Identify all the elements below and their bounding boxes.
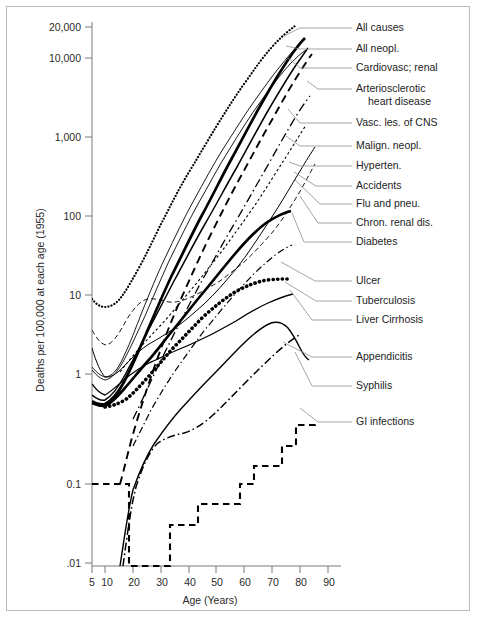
y-tick-label: 1 bbox=[75, 368, 81, 380]
mortality-log-log-chart: 20,000 10,000 1,000 100 10 1 0.1 .01 5 1… bbox=[0, 0, 478, 619]
chart-screenshot: 20,000 10,000 1,000 100 10 1 0.1 .01 5 1… bbox=[0, 0, 478, 619]
leader-liver-cirrhosis bbox=[290, 290, 352, 320]
x-tick-label: 10 bbox=[101, 576, 113, 588]
x-tick-label: 70 bbox=[267, 576, 279, 588]
curve-vasc-les-of-cns bbox=[92, 48, 308, 400]
plot-curves bbox=[92, 26, 315, 566]
y-tick-label: .01 bbox=[66, 557, 81, 569]
y-tick-label: 0.1 bbox=[66, 478, 81, 490]
leader-chron-renal-dis bbox=[300, 196, 352, 223]
label-arteriosclerotic: Arteriosclerotic bbox=[356, 82, 425, 94]
annotation-labels: All causes All neopl. Cardiovasc; renal … bbox=[356, 21, 438, 427]
x-ticks: 5 10 20 30 40 50 60 70 80 90 bbox=[89, 566, 335, 588]
x-tick-label: 20 bbox=[128, 576, 140, 588]
label-flu-and-pneu: Flu and pneu. bbox=[356, 197, 420, 209]
leader-diabetes bbox=[292, 213, 352, 242]
label-cardiovasc-renal: Cardiovasc; renal bbox=[356, 61, 438, 73]
label-malign-neopl: Malign. neopl. bbox=[356, 139, 421, 151]
label-hyperten: Hyperten. bbox=[356, 159, 402, 171]
x-tick-label: 40 bbox=[184, 576, 196, 588]
label-appendicitis: Appendicitis bbox=[356, 350, 413, 362]
leader-vasc-les-cns bbox=[288, 109, 352, 123]
label-all-causes: All causes bbox=[356, 21, 404, 33]
y-tick-label: 10,000 bbox=[49, 52, 81, 64]
y-tick-label: 10 bbox=[69, 289, 81, 301]
leader-tuberculosis bbox=[285, 282, 352, 301]
x-tick-label: 30 bbox=[156, 576, 168, 588]
x-tick-label: 50 bbox=[211, 576, 223, 588]
label-accidents: Accidents bbox=[356, 179, 402, 191]
leader-hyperten bbox=[289, 162, 352, 166]
leader-appendicitis bbox=[283, 342, 352, 357]
curve-all-causes bbox=[92, 26, 295, 307]
y-axis-title: Deaths per 100,000 at each age (1955) bbox=[34, 208, 46, 391]
curve-diabetes bbox=[92, 211, 291, 406]
label-ulcer: Ulcer bbox=[356, 274, 381, 286]
x-tick-label: 5 bbox=[89, 576, 95, 588]
label-diabetes: Diabetes bbox=[356, 235, 397, 247]
label-vasc-les-cns: Vasc. les. of CNS bbox=[356, 116, 438, 128]
leader-ulcer bbox=[281, 262, 352, 281]
x-tick-label: 90 bbox=[323, 576, 335, 588]
curve-cardiovasc-renal bbox=[92, 38, 305, 404]
x-tick-label: 60 bbox=[239, 576, 251, 588]
curve-all-neopl bbox=[92, 41, 303, 377]
label-heart-disease: heart disease bbox=[368, 95, 431, 107]
leader-flu-and-pneu bbox=[295, 180, 352, 204]
y-ticks: 20,000 10,000 1,000 100 10 1 0.1 .01 bbox=[49, 21, 92, 569]
curve-chron-renal-dis bbox=[120, 125, 306, 372]
label-all-neopl: All neopl. bbox=[356, 42, 399, 54]
leader-all-causes bbox=[284, 28, 352, 36]
leader-arteriosclerotic bbox=[307, 81, 352, 89]
label-liver-cirrhosis: Liver Cirrhosis bbox=[356, 313, 423, 325]
label-syphilis: Syphilis bbox=[356, 379, 392, 391]
y-tick-label: 100 bbox=[63, 210, 81, 222]
leader-gi-infections bbox=[300, 408, 352, 422]
y-tick-label: 1,000 bbox=[55, 131, 81, 143]
label-chron-renal-dis: Chron. renal dis. bbox=[356, 216, 433, 228]
y-tick-label: 20,000 bbox=[49, 21, 81, 33]
x-tick-label: 80 bbox=[295, 576, 307, 588]
x-axis-title: Age (Years) bbox=[182, 594, 237, 606]
curve-hyperten bbox=[133, 96, 310, 419]
curve-arteriosclerotic-heart-disease bbox=[120, 54, 312, 484]
leader-accidents bbox=[294, 172, 352, 186]
label-tuberculosis: Tuberculosis bbox=[356, 294, 415, 306]
label-gi-infections: GI infections bbox=[356, 415, 414, 427]
